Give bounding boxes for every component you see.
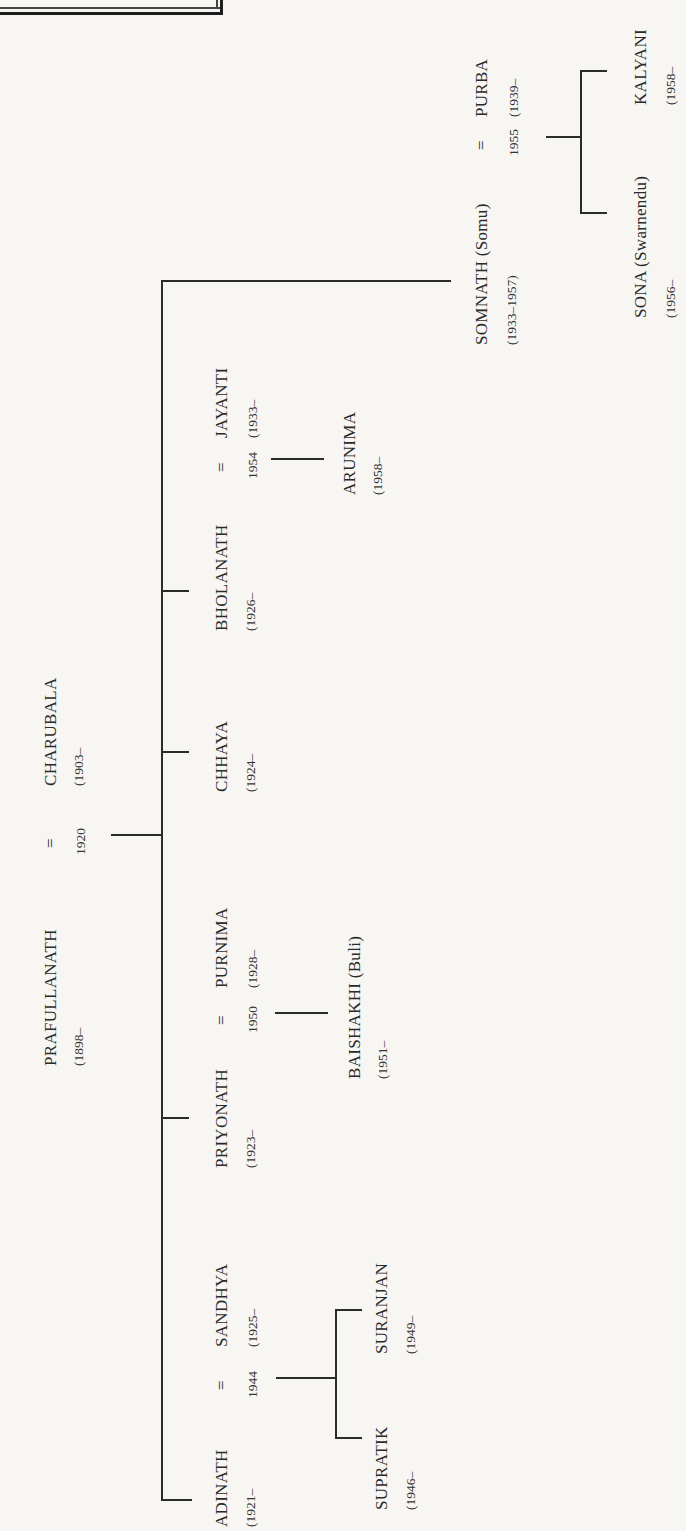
person-sona: SONA (Swarnendu) <box>632 176 649 318</box>
marriage-year-somnath: 1955 <box>507 129 521 156</box>
person-prafullanath: PRAFULLANATH <box>42 929 59 1066</box>
branch-adinath <box>161 1499 192 1501</box>
adinath-children-vertical <box>335 1309 337 1439</box>
dates-somnath: (1933–1957) <box>505 275 519 345</box>
person-bholanath: BHOLANATH <box>213 524 230 631</box>
branch-kalyani <box>580 70 607 72</box>
person-arunima: ARUNIMA <box>341 412 358 495</box>
branch-bholanath <box>161 590 189 592</box>
frame-border-corner <box>216 0 218 9</box>
siblings-vertical-line <box>161 280 163 1501</box>
dates-charubala: (1903– <box>72 748 86 786</box>
frame-border-corner-inner <box>220 0 223 15</box>
person-adinath: ADINATH <box>213 1449 230 1527</box>
person-kalyani: KALYANI <box>632 29 649 105</box>
somnath-children-vertical <box>580 70 582 214</box>
person-charubala: CHARUBALA <box>42 678 59 787</box>
dates-sandhya: (1925– <box>246 1309 260 1347</box>
branch-sona <box>580 212 607 214</box>
dates-suranjan: (1949– <box>404 1316 418 1354</box>
marriage-year-priyonath: 1950 <box>246 1006 260 1033</box>
root-marriage-connector <box>111 834 163 836</box>
bholanath-child-connector <box>271 458 324 460</box>
person-chhaya: CHHAYA <box>213 721 230 792</box>
marriage-symbol-adinath: = <box>213 1380 230 1390</box>
branch-chhaya <box>161 751 189 753</box>
person-baishakhi: BAISHAKHI (Buli) <box>346 936 363 1079</box>
dates-bholanath: (1926– <box>244 593 258 631</box>
dates-jayanti: (1933– <box>246 400 260 438</box>
priyonath-child-connector <box>275 1012 328 1014</box>
dates-adinath: (1921– <box>244 1489 258 1527</box>
branch-priyonath <box>161 1117 189 1119</box>
branch-supratik <box>335 1437 362 1439</box>
marriage-year-root: 1920 <box>74 828 88 855</box>
marriage-year-adinath: 1944 <box>246 1371 260 1398</box>
person-purba: PURBA <box>473 59 490 117</box>
somnath-marriage-connector <box>546 136 582 138</box>
dates-priyonath: (1923– <box>244 1130 258 1168</box>
branch-suranjan <box>335 1309 362 1311</box>
dates-baishakhi: (1951– <box>376 1041 390 1079</box>
adinath-marriage-connector <box>276 1377 336 1379</box>
frame-border-inner <box>0 12 222 15</box>
dates-supratik: (1946– <box>404 1472 418 1510</box>
dates-purnima: (1928– <box>246 950 260 988</box>
dates-kalyani: (1958– <box>664 67 678 105</box>
dates-chhaya: (1924– <box>244 754 258 792</box>
dates-sona: (1956– <box>664 280 678 318</box>
person-suranjan: SURANJAN <box>373 1263 390 1354</box>
dates-arunima: (1958– <box>371 457 385 495</box>
dates-prafullanath: (1898– <box>72 1028 86 1066</box>
person-supratik: SUPRATIK <box>373 1426 390 1510</box>
branch-somnath <box>161 280 451 282</box>
marriage-symbol-root: = <box>42 838 59 848</box>
person-sandhya: SANDHYA <box>213 1264 230 1347</box>
person-jayanti: JAYANTI <box>213 368 230 438</box>
person-purnima: PURNIMA <box>213 907 230 988</box>
marriage-symbol-bholanath: = <box>213 462 230 472</box>
dates-purba: (1939– <box>507 79 521 117</box>
frame-border-outer <box>0 7 220 9</box>
person-priyonath: PRIYONATH <box>213 1069 230 1168</box>
marriage-symbol-somnath: = <box>473 140 490 150</box>
marriage-year-bholanath: 1954 <box>246 452 260 479</box>
person-somnath: SOMNATH (Somu) <box>473 203 490 345</box>
marriage-symbol-priyonath: = <box>213 1015 230 1025</box>
